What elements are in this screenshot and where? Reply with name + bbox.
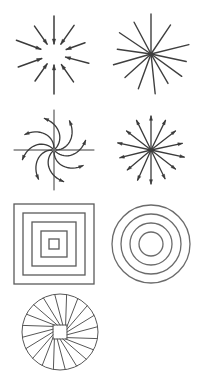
circle-ring-0 — [112, 205, 190, 283]
arrow-shaft-8 — [151, 150, 165, 179]
converging-arrows-canvas — [8, 8, 100, 100]
arrowhead-inward-8 — [66, 46, 71, 49]
arrowhead-inward-3 — [37, 58, 42, 61]
figure-concentric-circles — [109, 202, 193, 286]
arrowhead-outward-6 — [138, 176, 141, 181]
arrowhead-outward-1 — [137, 120, 140, 125]
spiral-arrowhead-5 — [59, 179, 64, 182]
starburst-center-dot — [149, 52, 153, 56]
spiral-arrowhead-7 — [83, 140, 86, 145]
spiral-arrowhead-4 — [35, 175, 38, 180]
figure-diverging-arrows — [105, 104, 197, 196]
square-ring-4 — [49, 239, 59, 249]
spiral-arrowhead-2 — [25, 131, 30, 134]
arrowhead-inward-2 — [36, 46, 41, 49]
spiral-arrowhead-3 — [22, 155, 25, 160]
circle-ring-2 — [130, 223, 172, 265]
diverging-center-dot — [149, 148, 153, 152]
fan-spoke-17 — [23, 325, 53, 326]
spiral-fan-canvas — [20, 292, 100, 372]
starburst-ray-1 — [134, 22, 151, 54]
circle-ring-3 — [139, 232, 163, 256]
arrowhead-outward-3 — [118, 142, 123, 145]
fan-inner-square — [53, 325, 67, 339]
spiral-arm-3 — [22, 144, 52, 160]
arrowhead-outward-11 — [178, 143, 183, 146]
fan-spoke-0 — [43, 298, 60, 325]
fan-outer-circle — [22, 294, 98, 370]
fan-spoke-15 — [26, 332, 53, 349]
figure-line-starburst — [105, 8, 197, 100]
fan-spoke-16 — [22, 329, 53, 337]
fan-spoke-7 — [67, 338, 97, 339]
line-starburst-canvas — [105, 8, 197, 100]
figure-spiral-fan — [20, 292, 100, 372]
figure-spiral-pinwheel — [8, 104, 100, 196]
fan-spoke-1 — [55, 294, 63, 325]
fan-spoke-11 — [57, 339, 65, 370]
concentric-circles-canvas — [109, 202, 193, 286]
square-ring-3 — [41, 231, 67, 257]
spiral-arrowhead-6 — [79, 165, 84, 168]
spiral-arrowhead-1 — [44, 118, 49, 121]
figure-converging-arrows — [8, 8, 100, 100]
arrow-shaft-13 — [151, 120, 165, 150]
arrowhead-inward-0 — [52, 39, 55, 44]
square-ring-2 — [32, 222, 76, 266]
fan-spoke-5 — [67, 315, 94, 332]
fan-spoke-12 — [53, 339, 54, 369]
spiral-arm-5 — [48, 151, 64, 181]
spiral-arm-1 — [44, 118, 60, 148]
arrowhead-inward-5 — [52, 65, 55, 70]
arrowhead-outward-10 — [180, 155, 185, 158]
fan-spoke-10 — [60, 339, 77, 366]
arrowhead-outward-8 — [162, 174, 165, 179]
fan-spoke-6 — [67, 327, 98, 335]
spiral-arm-7 — [55, 140, 85, 156]
fan-spoke-2 — [66, 295, 67, 325]
spiral-arrowhead-0 — [69, 121, 72, 126]
concentric-squares-canvas — [12, 202, 96, 286]
figure-concentric-squares — [12, 202, 96, 286]
arrowhead-inward-7 — [66, 57, 71, 60]
square-ring-0 — [14, 204, 94, 284]
arrow-shaft-6 — [138, 150, 151, 180]
arrowhead-outward-13 — [162, 120, 165, 125]
arrow-shaft-1 — [137, 120, 151, 150]
arrowhead-outward-0 — [150, 116, 153, 120]
diverging-arrows-canvas — [105, 104, 197, 196]
arrowhead-outward-7 — [150, 180, 153, 184]
arrowhead-outward-4 — [120, 155, 125, 158]
spiral-pinwheel-canvas — [8, 104, 100, 196]
